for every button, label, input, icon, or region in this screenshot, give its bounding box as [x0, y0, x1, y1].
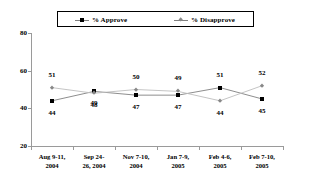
data-point-disapprove — [176, 90, 179, 93]
x-axis-tick — [241, 146, 242, 150]
x-axis-tick-label: Feb 7-10,2005 — [236, 152, 288, 170]
series-line-disapprove — [52, 86, 262, 101]
data-label-disapprove: 44 — [217, 109, 224, 117]
x-axis-tick — [73, 146, 74, 150]
legend-label-approve: % Approve — [92, 16, 127, 24]
x-axis-tick — [31, 146, 32, 150]
y-axis-tick — [28, 33, 31, 34]
data-label-approve: 51 — [217, 71, 224, 79]
data-label-disapprove: 49 — [175, 74, 182, 82]
line-chart: % Approve % Disapprove 20406080 44494747… — [0, 0, 318, 196]
data-point-approve — [218, 86, 222, 90]
series-line-approve — [52, 88, 262, 101]
y-axis-tick — [28, 71, 31, 72]
legend-item-approve: % Approve — [75, 14, 127, 26]
plot-area: 20406080 444947475145514850494452 — [31, 33, 283, 146]
square-marker-icon — [75, 20, 89, 21]
data-point-disapprove — [260, 84, 263, 87]
data-point-approve — [50, 99, 54, 103]
data-label-approve: 47 — [133, 103, 140, 111]
series-lines — [31, 33, 283, 146]
data-point-approve — [176, 93, 180, 97]
data-point-disapprove — [50, 86, 53, 89]
x-axis-tick — [157, 146, 158, 150]
data-point-approve — [260, 97, 264, 101]
y-axis-tick-label: 40 — [20, 104, 27, 112]
y-axis-tick-label: 20 — [20, 142, 27, 150]
data-point-disapprove — [92, 92, 95, 95]
y-axis-tick-label: 80 — [20, 29, 27, 37]
chart-legend: % Approve % Disapprove — [57, 11, 254, 27]
x-axis-tick — [199, 146, 200, 150]
data-point-disapprove — [134, 88, 137, 91]
x-axis-tick — [115, 146, 116, 150]
data-label-disapprove: 48 — [91, 101, 98, 109]
data-label-disapprove: 50 — [133, 73, 140, 81]
data-label-disapprove: 52 — [259, 69, 266, 77]
y-axis-tick-label: 60 — [20, 67, 27, 75]
legend-label-disapprove: % Disapprove — [191, 16, 235, 24]
data-point-approve — [134, 93, 138, 97]
data-point-disapprove — [218, 99, 221, 102]
data-label-approve: 44 — [49, 109, 56, 117]
data-label-approve: 47 — [175, 103, 182, 111]
data-label-approve: 45 — [259, 107, 266, 115]
x-axis-tick — [283, 146, 284, 150]
data-label-disapprove: 51 — [49, 71, 56, 79]
legend-item-disapprove: % Disapprove — [174, 14, 235, 26]
diamond-marker-icon — [174, 20, 188, 21]
y-axis-tick — [28, 108, 31, 109]
